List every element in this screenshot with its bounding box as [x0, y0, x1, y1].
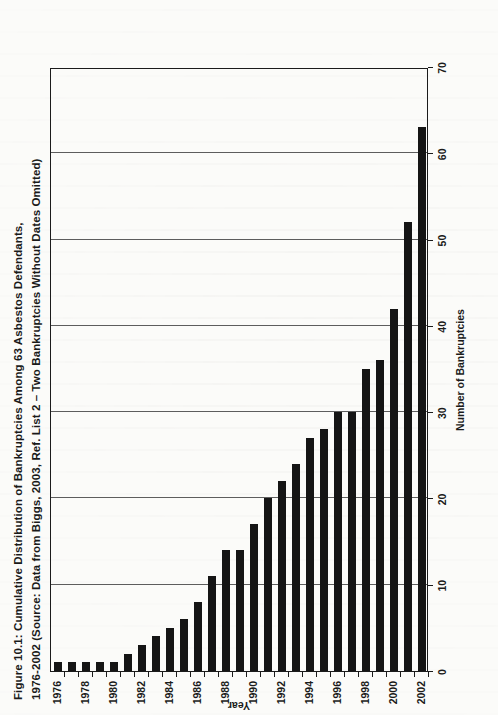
category-axis-tick-label: 1998	[359, 681, 371, 704]
bar[interactable]	[404, 222, 412, 671]
bar[interactable]	[362, 369, 370, 671]
bar-row	[401, 69, 415, 671]
bar-row	[51, 69, 65, 671]
bar[interactable]	[208, 576, 216, 671]
category-axis-tick-label: 1982	[135, 681, 147, 704]
category-axis-tick	[92, 672, 93, 677]
category-axis-tick	[134, 672, 135, 677]
bar[interactable]	[110, 662, 118, 671]
bar-row	[135, 69, 149, 671]
bar-row	[233, 69, 247, 671]
bar[interactable]	[166, 627, 174, 670]
category-axis-tick	[274, 672, 275, 677]
bar-row	[247, 69, 261, 671]
bar-row	[387, 69, 401, 671]
bar-row	[65, 69, 79, 671]
category-axis-tick	[176, 672, 177, 677]
category-axis-tick	[64, 672, 65, 677]
value-axis-tick	[428, 67, 433, 68]
category-axis-tick-label: 1984	[163, 681, 175, 704]
category-axis-tick	[316, 672, 317, 677]
value-axis-tick-label: 0	[436, 669, 448, 675]
category-axis-tick-label: 1996	[331, 681, 343, 704]
value-axis-tick	[428, 239, 433, 240]
value-axis-tick-label: 40	[436, 321, 448, 333]
category-axis-tick	[372, 672, 373, 677]
bar-row	[317, 69, 331, 671]
bar[interactable]	[236, 550, 244, 671]
figure-title: Figure 10.1: Cumulative Distribution of …	[10, 10, 46, 700]
bar[interactable]	[306, 438, 314, 671]
category-axis-tick	[414, 672, 415, 677]
bar[interactable]	[334, 412, 342, 671]
category-axis-tick	[260, 672, 261, 677]
bar-row	[373, 69, 387, 671]
bar-row	[261, 69, 275, 671]
category-axis-tick	[148, 672, 149, 677]
category-axis-tick-label: 1976	[51, 681, 63, 704]
category-axis-tick	[190, 672, 191, 677]
category-axis-tick	[162, 672, 163, 677]
bar-row	[331, 69, 345, 671]
bar-row	[177, 69, 191, 671]
bar[interactable]	[180, 619, 188, 671]
bar-row	[163, 69, 177, 671]
bar[interactable]	[348, 412, 356, 671]
bar-row	[359, 69, 373, 671]
bar[interactable]	[138, 645, 146, 671]
category-axis-title: Year	[228, 700, 250, 712]
bar[interactable]	[152, 636, 160, 671]
category-axis-tick	[246, 672, 247, 677]
bar-row	[219, 69, 233, 671]
bar[interactable]	[250, 524, 258, 671]
bar-row	[205, 69, 219, 671]
category-axis-tick-label: 1992	[275, 681, 287, 704]
value-axis-tick-label: 70	[436, 62, 448, 74]
value-axis-tick-label: 20	[436, 493, 448, 505]
bar[interactable]	[194, 601, 202, 670]
bar-row	[345, 69, 359, 671]
bar[interactable]	[292, 463, 300, 670]
category-axis-tick-label: 1986	[191, 681, 203, 704]
category-axis-tick	[120, 672, 121, 677]
category-axis-tick-label: 2000	[387, 681, 399, 704]
bar[interactable]	[264, 498, 272, 671]
bar[interactable]	[390, 308, 398, 670]
category-axis-tick-label: 1980	[107, 681, 119, 704]
bar-row	[303, 69, 317, 671]
value-axis-tick	[428, 412, 433, 413]
category-axis-tick-label: 2002	[415, 681, 427, 704]
bar[interactable]	[222, 550, 230, 671]
value-axis-tick	[428, 325, 433, 326]
bar[interactable]	[82, 662, 90, 671]
bar-row	[149, 69, 163, 671]
bar[interactable]	[54, 662, 62, 671]
category-axis-tick	[386, 672, 387, 677]
bar[interactable]	[124, 653, 132, 670]
category-axis-tick	[232, 672, 233, 677]
plot-area	[50, 68, 428, 672]
bar[interactable]	[96, 662, 104, 671]
category-axis-tick	[330, 672, 331, 677]
bar-row	[191, 69, 205, 671]
bar[interactable]	[320, 429, 328, 671]
bar[interactable]	[418, 127, 426, 671]
category-axis-tick	[288, 672, 289, 677]
bar-row	[121, 69, 135, 671]
value-axis-tick-label: 60	[436, 148, 448, 160]
value-axis-tick-label: 30	[436, 407, 448, 419]
value-axis-tick-label: 50	[436, 234, 448, 246]
category-axis-tick	[78, 672, 79, 677]
category-axis-tick-label: 1978	[79, 681, 91, 704]
bar[interactable]	[278, 481, 286, 671]
value-axis-title: Number of Bankruptcies	[454, 68, 466, 672]
value-axis-tick	[428, 153, 433, 154]
plot-wrapper: 010203040506070 Number of Bankruptcies 1…	[50, 68, 428, 672]
category-axis-tick	[358, 672, 359, 677]
bar-row	[93, 69, 107, 671]
bar-row	[107, 69, 121, 671]
bar[interactable]	[376, 360, 384, 671]
bar[interactable]	[68, 662, 76, 671]
category-axis-tick	[106, 672, 107, 677]
category-axis-tick	[204, 672, 205, 677]
